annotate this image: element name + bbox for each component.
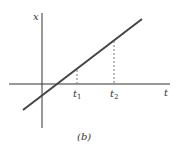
x-axis-label: t [164,87,169,98]
y-axis-label: x [33,11,39,22]
linear-graph-line [23,19,142,110]
diagram: x t t1 t2 (b) [0,0,177,158]
caption: (b) [77,131,91,142]
t2-label: t2 [110,88,119,101]
t1-label: t1 [73,88,82,101]
